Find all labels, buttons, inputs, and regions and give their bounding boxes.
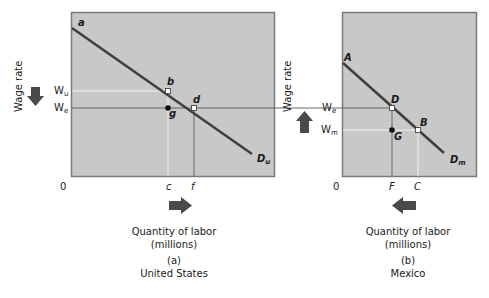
label-demand-us: Du: [257, 153, 270, 168]
tick-C: C: [414, 181, 421, 193]
label-wm: Wm: [321, 124, 338, 139]
tick-F: F: [389, 181, 395, 193]
origin-a: 0: [60, 181, 66, 193]
panel-a-x-axis-label: Quantity of labor: [114, 225, 234, 238]
panel-b-x-axis-label: Quantity of labor: [348, 225, 468, 238]
panel-a-y-axis-label: Wage rate: [13, 61, 24, 112]
label-wu: Wu: [54, 85, 68, 100]
panel-a-country: United States: [114, 267, 234, 280]
origin-b: 0: [333, 181, 339, 193]
point-d: [192, 106, 197, 111]
panel-a-id: (a): [114, 254, 234, 267]
arrow-left-icon: [392, 197, 416, 214]
label-point-G: G: [394, 131, 402, 143]
panel-b-plot-area: [343, 13, 477, 177]
panel-b-y-axis-label: Wage rate: [282, 61, 293, 112]
label-we-a: We: [54, 102, 68, 117]
label-point-B: B: [420, 117, 428, 129]
label-point-A: A: [344, 52, 352, 64]
label-demand-mexico: Dm: [450, 154, 466, 169]
label-point-b: b: [167, 76, 174, 88]
label-point-g: g: [169, 108, 176, 120]
arrow-up-icon: [296, 111, 313, 133]
arrow-right-icon: [169, 197, 192, 214]
panel-a-plot-area: [72, 13, 275, 177]
point-b: [166, 89, 171, 94]
panel-b-caption: Quantity of labor (millions) (b) Mexico: [348, 225, 468, 280]
arrow-down-icon: [27, 87, 44, 106]
panel-b-country: Mexico: [348, 267, 468, 280]
label-point-D: D: [391, 94, 399, 106]
tick-f: f: [191, 181, 195, 193]
label-point-d: d: [193, 94, 200, 106]
tick-c: c: [166, 181, 172, 193]
panel-b-id: (b): [348, 254, 468, 267]
label-point-a: a: [78, 17, 85, 29]
point-D: [390, 106, 395, 111]
panel-a-x-axis-units: (millions): [114, 238, 234, 251]
label-we-b: We: [322, 102, 336, 117]
panel-b-x-axis-units: (millions): [348, 238, 468, 251]
panel-a-caption: Quantity of labor (millions) (a) United …: [114, 225, 234, 280]
